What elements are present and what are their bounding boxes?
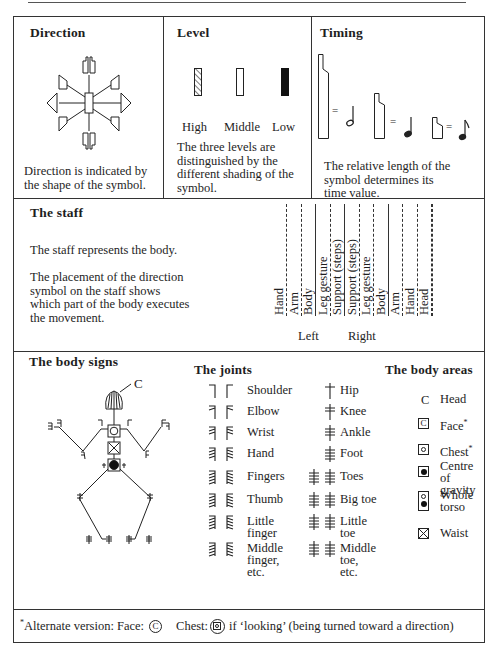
joint-label-line: Ankle [340, 426, 371, 438]
staff-column-label: Hand [404, 288, 417, 315]
joint-label-line: etc. [340, 566, 376, 578]
joint-label: Littletoe [340, 515, 367, 539]
staff-title: The staff [30, 205, 83, 221]
joint-label: Thumb [247, 493, 283, 505]
joint-label-line: etc. [247, 566, 283, 578]
staff-column-label: Body [375, 288, 388, 315]
joint-label-line: Hand [247, 447, 274, 459]
direction-caption-line: the shape of the symbol. [24, 179, 147, 193]
body-area-label: Wholetorso [440, 489, 473, 513]
timing-equals: = [446, 120, 452, 132]
staff-diagram: HandArmBodyLeg gestureSupport (steps)Sup… [273, 199, 473, 319]
direction-caption: Direction is indicated by the shape of t… [24, 165, 147, 192]
joint-label: Big toe [340, 493, 376, 505]
level-caption-line: different shading of the [177, 168, 294, 182]
face-alt-symbol: C [153, 621, 159, 631]
timing-title: Timing [320, 25, 363, 41]
staff-text-1: The staff represents the body. [30, 244, 177, 258]
joints-title: The joints [194, 362, 252, 378]
level-title: Level [177, 25, 210, 41]
timing-long-symbol-icon [318, 54, 330, 139]
asterisk: * [464, 418, 468, 427]
joint-label-line: toe [340, 527, 367, 539]
footnote-text-1: Alternate version: Face: [24, 619, 144, 634]
staff-text-line: which part of the body executes [30, 298, 189, 312]
joint-label: Fingers [247, 470, 285, 482]
svg-text:C: C [134, 376, 143, 391]
joint-label-line: Fingers [247, 470, 285, 482]
body-area-label-line: Head [440, 393, 466, 405]
timing-short-symbol-icon [432, 117, 444, 139]
body-area-label-line: Face* [440, 417, 468, 432]
staff-right-label: Right [348, 329, 376, 344]
joint-label-line: Wrist [247, 426, 274, 438]
quarter-note-icon [403, 116, 413, 138]
staff-left-label: Left [298, 329, 319, 344]
staff-column-label: Support (steps) [346, 239, 359, 315]
level-label-low: Low [272, 120, 295, 135]
direction-symbols-icon [39, 53, 139, 153]
timing-caption-line: symbol determines its [324, 174, 450, 188]
staff-column-label: Leg gesture [317, 256, 330, 315]
body-area-label-line: Chest* [440, 443, 472, 458]
joint-label: Shoulder [247, 384, 292, 396]
joint-label: Ankle [340, 426, 371, 438]
staff-text-2: The placement of the direction symbol on… [30, 271, 189, 325]
timing-caption: The relative length of the symbol determ… [324, 160, 450, 201]
joint-label-line: Hip [340, 384, 359, 396]
joint-label: Hand [247, 447, 274, 459]
direction-title: Direction [30, 25, 86, 41]
joint-label: Middletoe,etc. [340, 542, 376, 578]
level-panel: Level High Middle Low The three levels a… [164, 17, 311, 198]
staff-line [432, 204, 433, 316]
level-caption-line: symbol. [177, 182, 294, 196]
staff-text-line: The placement of the direction [30, 271, 189, 285]
joint-label-line: Foot [340, 447, 363, 459]
head-area-icon: C [421, 392, 429, 407]
direction-caption-line: Direction is indicated by [24, 165, 147, 179]
face-alt-icon: C [149, 620, 162, 633]
level-label-high: High [182, 120, 207, 135]
whole-torso-icon [418, 491, 429, 511]
eighth-note-icon [459, 119, 471, 141]
timing-equals: = [332, 104, 338, 116]
asterisk: * [468, 444, 472, 453]
level-caption-line: distinguished by the [177, 155, 294, 169]
body-signs-title: The body signs [29, 354, 118, 370]
joint-label: Wrist [247, 426, 274, 438]
centre-of-gravity-icon [418, 466, 429, 477]
footnote-text-2: Chest: [176, 619, 208, 634]
joint-label: Knee [340, 405, 366, 417]
staff-column-label: Arm [288, 292, 301, 315]
joint-label-line: Thumb [247, 493, 283, 505]
footnote-text-3: if ‘looking’ (being turned toward a dire… [229, 619, 454, 634]
staff-column-label: Hand [273, 288, 286, 315]
joint-label-line: Elbow [247, 405, 280, 417]
level-low-icon [281, 68, 289, 96]
body-signs-panel: The body signs C [14, 352, 484, 609]
joint-label: Foot [340, 447, 363, 459]
staff-column-label: Leg gesture [360, 256, 373, 315]
joint-label-line: finger [247, 527, 277, 539]
joint-label: Toes [340, 470, 363, 482]
joint-label: Middlefinger,etc. [247, 542, 283, 578]
staff-column-label: Arm [389, 292, 402, 315]
body-area-label: Face* [440, 417, 468, 432]
body-figure-icon: C [24, 372, 164, 572]
top-rule [28, 2, 466, 3]
level-label-middle: Middle [224, 120, 260, 135]
chest-area-icon [418, 444, 429, 455]
footnote: * Alternate version: Face: C Chest: if ‘… [14, 610, 484, 643]
chart-frame: Direction Direction is indicated by the [13, 16, 485, 643]
staff-text-line: the movement. [30, 312, 189, 326]
body-area-label-line: torso [440, 501, 473, 513]
level-caption-line: The three levels are [177, 141, 294, 155]
timing-equals: = [390, 115, 396, 127]
joint-label-line: Toes [340, 470, 363, 482]
body-area-label: Chest* [440, 443, 472, 458]
level-caption: The three levels are distinguished by th… [177, 141, 294, 195]
chest-alt-icon [210, 619, 225, 634]
joint-label: Littlefinger [247, 515, 277, 539]
timing-medium-symbol-icon [374, 93, 386, 139]
timing-caption-line: The relative length of the [324, 160, 450, 174]
